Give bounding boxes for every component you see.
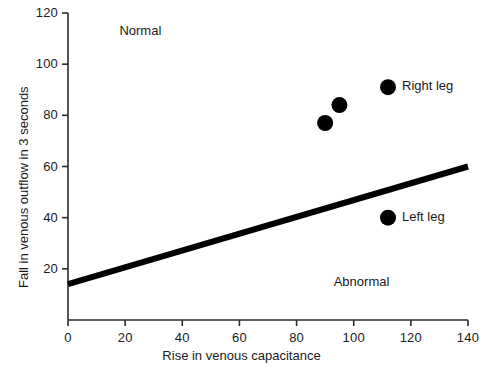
data-point <box>380 210 396 226</box>
data-points-group <box>317 79 396 225</box>
x-axis-ticks <box>68 320 468 326</box>
data-point-label: Left leg <box>402 209 445 224</box>
region-label-normal: Normal <box>119 23 161 38</box>
x-axis-tick-label: 0 <box>43 330 93 345</box>
x-axis-tick-label: 120 <box>386 330 436 345</box>
y-axis-tick-label: 60 <box>20 159 58 174</box>
y-axis-ticks <box>62 13 68 269</box>
x-axis-tick-label: 100 <box>329 330 379 345</box>
x-axis-tick-label: 60 <box>214 330 264 345</box>
x-axis-tick-label: 140 <box>443 330 483 345</box>
data-point <box>331 97 347 113</box>
y-axis-tick-label: 120 <box>20 5 58 20</box>
y-axis-tick-label: 20 <box>20 261 58 276</box>
scatter-chart: Fall in venous outflow in 3 seconds Rise… <box>0 0 483 368</box>
x-axis-title: Rise in venous capacitance <box>0 348 483 363</box>
x-axis-tick-label: 40 <box>157 330 207 345</box>
axes-group <box>68 13 468 320</box>
threshold-line-segment <box>68 167 468 285</box>
y-axis-tick-label: 40 <box>20 210 58 225</box>
threshold-line <box>68 167 468 285</box>
x-axis-tick-label: 20 <box>100 330 150 345</box>
region-label-abnormal: Abnormal <box>334 274 390 289</box>
y-axis-tick-label: 80 <box>20 107 58 122</box>
data-point-label: Right leg <box>402 78 453 93</box>
data-point <box>317 115 333 131</box>
y-axis-tick-label: 100 <box>20 56 58 71</box>
data-point <box>380 79 396 95</box>
x-axis-tick-label: 80 <box>272 330 322 345</box>
plot-area-svg <box>0 0 483 368</box>
